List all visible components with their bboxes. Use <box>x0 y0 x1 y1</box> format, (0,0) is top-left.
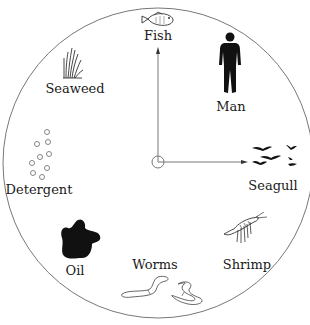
label-shrimp: Shrimp <box>223 258 271 271</box>
spinner-diagram: Fish Man Seagull Shrimp Worms Oil <box>0 0 310 325</box>
seaweed-icon <box>62 46 84 80</box>
label-oil: Oil <box>66 264 85 277</box>
label-seagull: Seagull <box>248 179 297 192</box>
label-fish: Fish <box>144 29 172 42</box>
worms-icon <box>118 272 208 308</box>
label-seaweed: Seaweed <box>45 82 104 95</box>
label-man: Man <box>216 100 245 113</box>
shrimp-icon <box>222 212 268 246</box>
fish-icon <box>140 10 176 28</box>
seagull-icon <box>250 142 300 172</box>
label-detergent: Detergent <box>6 183 73 196</box>
man-icon <box>217 32 243 96</box>
oil-icon <box>58 218 104 260</box>
label-worms: Worms <box>132 258 178 271</box>
detergent-icon <box>28 128 58 180</box>
